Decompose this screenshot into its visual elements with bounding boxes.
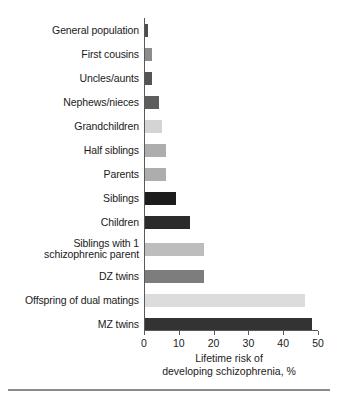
bar-row: Offspring of dual matings: [0, 288, 338, 312]
bar-row: General population: [0, 18, 338, 42]
bar-category-label: General population: [0, 25, 145, 36]
bar-row: Half siblings: [0, 138, 338, 162]
x-tick-label: 0: [141, 337, 147, 349]
bar-track: [145, 264, 338, 288]
x-axis-title: Lifetime risk of developing schizophreni…: [120, 352, 338, 378]
x-tick-label: 10: [173, 337, 185, 349]
bar-track: [145, 288, 338, 312]
bar-category-label: Uncles/aunts: [0, 73, 145, 84]
bar: [145, 243, 204, 256]
x-tick-mark: [214, 331, 215, 335]
bar-category-label: DZ twins: [0, 271, 145, 282]
bar: [145, 216, 190, 229]
bar: [145, 96, 159, 109]
bar-category-label: Half siblings: [0, 145, 145, 156]
bar-track: [145, 90, 338, 114]
bar-track: [145, 114, 338, 138]
x-tick-mark: [144, 331, 145, 335]
y-axis-spine: [144, 18, 145, 330]
bar: [145, 48, 152, 61]
bar-track: [145, 66, 338, 90]
bar-row: First cousins: [0, 42, 338, 66]
plot-area: General populationFirst cousinsUncles/au…: [0, 18, 338, 330]
x-tick-label: 40: [277, 337, 289, 349]
bar-track: [145, 18, 338, 42]
x-tick-mark: [248, 331, 249, 335]
x-axis-title-line-2: developing schizophrenia, %: [120, 365, 338, 378]
x-tick-label: 30: [243, 337, 255, 349]
bar: [145, 144, 166, 157]
bar: [145, 270, 204, 283]
figure-container: General populationFirst cousinsUncles/au…: [0, 0, 338, 400]
bar: [145, 168, 166, 181]
x-tick-mark: [283, 331, 284, 335]
x-tick-mark: [318, 331, 319, 335]
bar-category-label: Children: [0, 217, 145, 228]
bar-row: Uncles/aunts: [0, 66, 338, 90]
x-tick-label: 20: [208, 337, 220, 349]
bar: [145, 192, 176, 205]
bar-track: [145, 234, 338, 264]
x-axis-title-line-1: Lifetime risk of: [120, 352, 338, 365]
bar: [145, 72, 152, 85]
bar-row: Children: [0, 210, 338, 234]
footer-divider: [8, 389, 330, 391]
bar-category-label: First cousins: [0, 49, 145, 60]
bar: [145, 318, 312, 331]
bar-row: Nephews/nieces: [0, 90, 338, 114]
bar-track: [145, 138, 338, 162]
x-tick-mark: [179, 331, 180, 335]
bar-track: [145, 162, 338, 186]
bar-category-label: Parents: [0, 169, 145, 180]
bar-category-label: Offspring of dual matings: [0, 295, 145, 306]
x-axis-line: [144, 330, 318, 331]
bar-category-label: Grandchildren: [0, 121, 145, 132]
bar-row: Parents: [0, 162, 338, 186]
x-tick-label: 50: [312, 337, 324, 349]
bar-track: [145, 42, 338, 66]
bar-category-label: Siblings: [0, 193, 145, 204]
bar-category-label: Nephews/nieces: [0, 97, 145, 108]
bar: [145, 294, 305, 307]
bar-category-label: Siblings with 1 schizophrenic parent: [0, 238, 145, 260]
bar-row: Siblings: [0, 186, 338, 210]
bar-row: Siblings with 1 schizophrenic parent: [0, 234, 338, 264]
bar-track: [145, 210, 338, 234]
bar-track: [145, 186, 338, 210]
bar: [145, 24, 148, 37]
bar-row: DZ twins: [0, 264, 338, 288]
bar: [145, 120, 162, 133]
bar-row: MZ twins: [0, 312, 338, 336]
bar-rows: General populationFirst cousinsUncles/au…: [0, 18, 338, 336]
bar-row: Grandchildren: [0, 114, 338, 138]
bar-category-label: MZ twins: [0, 319, 145, 330]
bar-track: [145, 312, 338, 336]
